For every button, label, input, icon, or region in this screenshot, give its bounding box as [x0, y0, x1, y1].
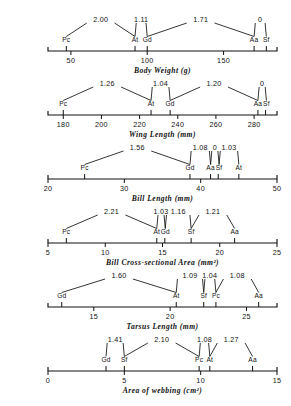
- ratio-connector: [265, 87, 266, 101]
- ratio-connector: [215, 23, 255, 37]
- chart-panel: 510152025PcAtGdSfAa2.211.031.161.21Bill …: [0, 196, 291, 260]
- ratio-value-label: 0: [213, 143, 217, 152]
- ratio-value-label: 1.16: [171, 207, 186, 216]
- ratio-connector: [115, 23, 135, 37]
- ratio-connector: [254, 23, 255, 37]
- ratio-connector: [245, 343, 252, 357]
- ratio-connector: [151, 87, 152, 101]
- ratio-connector: [66, 215, 97, 229]
- ratio-connector: [190, 215, 191, 229]
- taxon-label: Pc: [212, 292, 221, 299]
- ratio-value-label: 1.08: [193, 143, 208, 152]
- ratio-connector: [190, 151, 191, 165]
- ratio-connector: [165, 215, 166, 229]
- x-axis-tick-label: 100: [141, 56, 154, 65]
- ratio-connector: [125, 215, 156, 229]
- number-line-plot: 20304050PcGdAaSfAt1.561.0801.03Bill Leng…: [0, 132, 291, 196]
- ratio-value-label: 1.27: [224, 335, 239, 344]
- x-axis-tick-label: 5: [46, 248, 50, 257]
- taxon-label: Pc: [195, 356, 204, 363]
- ratio-connector: [210, 343, 217, 357]
- taxon-label: Gd: [166, 100, 175, 107]
- ratio-value-label: 1.21: [205, 207, 220, 216]
- number-line-plot: 180200220240260280PcAtGdAaSf1.261.041.20…: [0, 68, 291, 132]
- ratio-connector: [191, 215, 199, 229]
- ratio-connector: [135, 23, 136, 37]
- taxon-label: Aa: [206, 164, 215, 171]
- ratio-connector: [211, 151, 212, 165]
- taxon-label: Sf: [200, 292, 207, 299]
- ratio-value-label: 1.08: [197, 335, 212, 344]
- x-axis-tick-label: 30: [120, 184, 129, 193]
- x-axis-tick-label: 150: [217, 56, 230, 65]
- chart-panel: 50100150PcAtGdAaSf2.001.111.710Body Weig…: [0, 4, 291, 68]
- taxon-label: At: [153, 228, 160, 235]
- ratio-connector: [238, 151, 239, 165]
- taxon-label: At: [173, 292, 180, 299]
- ratio-connector: [62, 279, 105, 293]
- taxon-label: At: [236, 164, 243, 171]
- ratio-connector: [176, 343, 200, 357]
- x-axis-tick-label: 15: [89, 312, 98, 321]
- ratio-connector: [146, 23, 147, 37]
- ratio-connector: [121, 87, 151, 101]
- ratio-connector: [227, 215, 235, 229]
- ratio-value-label: 1.04: [153, 79, 168, 88]
- taxon-label: Pc: [62, 36, 71, 43]
- taxon-label: Aa: [254, 292, 263, 299]
- taxon-label: Sf: [121, 356, 128, 363]
- ratio-connector: [147, 23, 187, 37]
- x-axis-tick-label: 280: [248, 120, 261, 129]
- chart-panel: 051015GdSfPcAtAa1.412.101.081.27Area of …: [0, 324, 291, 388]
- ratio-connector: [209, 343, 210, 357]
- ratio-connector: [258, 87, 259, 101]
- taxon-label: Aa: [230, 228, 239, 235]
- number-line-plot: 051015GdSfPcAtAa1.412.101.081.27Area of …: [0, 324, 291, 388]
- x-axis-tick-label: 10: [196, 376, 205, 385]
- ratio-connector: [199, 343, 200, 357]
- taxon-label: Sf: [263, 100, 270, 107]
- ratio-value-label: 1.03: [154, 207, 169, 216]
- x-axis-tick-label: 240: [171, 120, 184, 129]
- x-axis-line: [48, 175, 277, 179]
- ratio-connector: [228, 87, 258, 101]
- ratio-connector: [85, 151, 124, 165]
- ratio-connector: [169, 87, 170, 101]
- taxon-label: Gd: [185, 164, 194, 171]
- ratio-value-label: 2.00: [93, 15, 108, 24]
- x-axis-tick-label: 40: [196, 184, 205, 193]
- ratio-connector: [216, 279, 223, 293]
- taxon-label: Sf: [188, 228, 195, 235]
- ratio-connector: [133, 279, 176, 293]
- x-axis-line: [48, 239, 277, 243]
- ratio-connector: [215, 279, 216, 293]
- taxon-label: At: [207, 356, 214, 363]
- ratio-value-label: 1.03: [221, 143, 236, 152]
- ratio-connector: [170, 87, 200, 101]
- x-axis-tick-label: 5: [122, 376, 126, 385]
- x-axis-tick-label: 25: [242, 312, 251, 321]
- chart-panel: 180200220240260280PcAtGdAaSf1.261.041.20…: [0, 68, 291, 132]
- x-axis-tick-label: 20: [166, 312, 175, 321]
- ratio-value-label: 2.10: [154, 335, 169, 344]
- ratio-value-label: 1.04: [202, 271, 217, 280]
- x-axis-tick-label: 15: [158, 248, 167, 257]
- taxon-label: Pc: [81, 164, 90, 171]
- taxon-label: Pc: [62, 228, 71, 235]
- x-axis-tick-label: 50: [67, 56, 76, 65]
- x-axis-title: Area of webbing (cm²): [122, 386, 202, 395]
- x-axis-tick-label: 200: [95, 120, 108, 129]
- number-line-plot: 50100150PcAtGdAaSf2.001.111.710Body Weig…: [0, 4, 291, 68]
- number-line-plot: 152025GdAtSfPcAa1.601.091.041.08Tarsus L…: [0, 260, 291, 324]
- ratio-value-label: 1.71: [193, 15, 208, 24]
- ratio-connector: [251, 279, 258, 293]
- ratio-value-label: 1.20: [207, 79, 222, 88]
- ratio-connector: [151, 151, 190, 165]
- x-axis-tick-label: 260: [209, 120, 222, 129]
- taxon-label: At: [132, 36, 139, 43]
- ratio-connector: [123, 343, 124, 357]
- x-axis-tick-label: 50: [273, 184, 282, 193]
- ratio-value-label: 2.21: [104, 207, 119, 216]
- x-axis-line: [48, 367, 277, 371]
- x-axis-tick-label: 220: [133, 120, 146, 129]
